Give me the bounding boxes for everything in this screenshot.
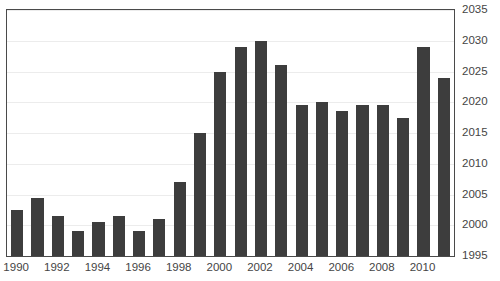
y-tick-label-2010: 2010 bbox=[462, 157, 488, 169]
x-tick-label-1998: 1998 bbox=[166, 261, 192, 273]
bar-1999 bbox=[194, 133, 206, 256]
bar-1991 bbox=[31, 198, 43, 256]
bar-2008 bbox=[377, 105, 389, 256]
x-tick-label-1994: 1994 bbox=[85, 261, 111, 273]
y-tick-label-2000: 2000 bbox=[462, 218, 488, 230]
bar-1990 bbox=[11, 210, 23, 256]
y-tick-label-2030: 2030 bbox=[462, 34, 488, 46]
bar-chart: 199520002005201020152020202520302035 199… bbox=[0, 0, 500, 281]
bar-1996 bbox=[133, 231, 145, 256]
x-tick-label-2004: 2004 bbox=[288, 261, 314, 273]
bar-2006 bbox=[336, 111, 348, 256]
x-tick-label-1996: 1996 bbox=[125, 261, 151, 273]
bar-2002 bbox=[255, 41, 267, 256]
x-tick-label-2002: 2002 bbox=[247, 261, 273, 273]
y-tick-label-2015: 2015 bbox=[462, 126, 488, 138]
plot-area bbox=[7, 10, 454, 256]
bar-2011 bbox=[438, 78, 450, 256]
y-tick-label-1995: 1995 bbox=[462, 249, 488, 261]
x-tick-label-1992: 1992 bbox=[44, 261, 70, 273]
y-axis: 199520002005201020152020202520302035 bbox=[462, 0, 500, 281]
bar-1997 bbox=[153, 219, 165, 256]
bar-2010 bbox=[417, 47, 429, 256]
bar-2005 bbox=[316, 102, 328, 256]
x-tick-label-2006: 2006 bbox=[328, 261, 354, 273]
bar-1992 bbox=[52, 216, 64, 256]
bar-1994 bbox=[92, 222, 104, 256]
x-tick-label-2000: 2000 bbox=[207, 261, 233, 273]
bar-2001 bbox=[235, 47, 247, 256]
bar-2003 bbox=[275, 65, 287, 256]
y-tick-label-2035: 2035 bbox=[462, 3, 488, 15]
bar-1995 bbox=[113, 216, 125, 256]
x-axis: 1990199219941996199820002002200420062008… bbox=[6, 259, 455, 281]
bar-2004 bbox=[296, 105, 308, 256]
bar-2007 bbox=[356, 105, 368, 256]
x-tick-label-1990: 1990 bbox=[3, 261, 29, 273]
bar-2009 bbox=[397, 118, 409, 256]
y-tick-label-2005: 2005 bbox=[462, 188, 488, 200]
cropped-title-strip bbox=[0, 0, 455, 9]
x-tick-label-2008: 2008 bbox=[369, 261, 395, 273]
y-tick-label-2020: 2020 bbox=[462, 95, 488, 107]
bar-1993 bbox=[72, 231, 84, 256]
bar-2000 bbox=[214, 72, 226, 257]
x-tick-label-2010: 2010 bbox=[410, 261, 436, 273]
bar-1998 bbox=[174, 182, 186, 256]
y-tick-label-2025: 2025 bbox=[462, 65, 488, 77]
plot-frame bbox=[6, 9, 455, 257]
